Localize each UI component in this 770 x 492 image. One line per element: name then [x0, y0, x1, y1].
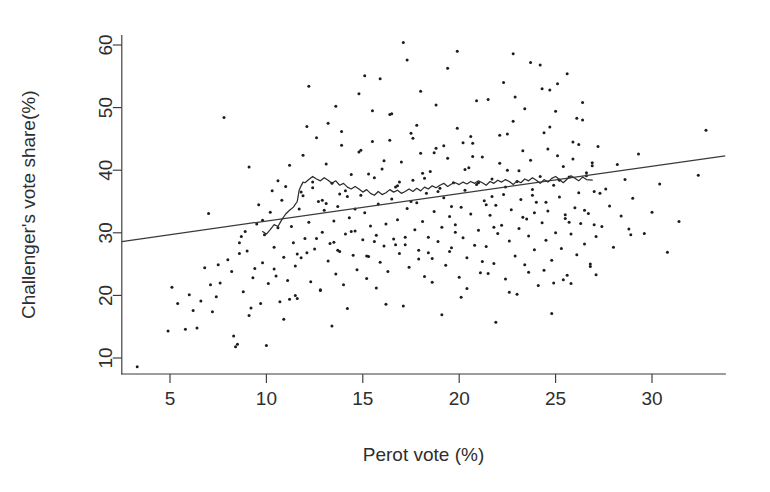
data-point	[539, 175, 542, 178]
data-point	[427, 251, 430, 254]
data-point	[383, 159, 386, 162]
data-point	[315, 237, 318, 240]
data-point	[384, 303, 387, 306]
data-point	[433, 210, 436, 213]
data-point	[519, 198, 522, 201]
data-point	[373, 240, 376, 243]
data-point	[591, 161, 594, 164]
data-point	[410, 132, 413, 135]
data-point	[292, 241, 295, 244]
data-point	[419, 152, 422, 155]
data-point	[273, 246, 276, 249]
data-point	[259, 302, 262, 305]
data-point	[342, 283, 345, 286]
data-point	[392, 238, 395, 241]
data-point	[537, 284, 540, 287]
data-point	[246, 249, 249, 252]
data-point	[332, 219, 335, 222]
data-point	[363, 211, 366, 214]
data-point	[492, 226, 495, 229]
data-point	[340, 130, 343, 133]
data-point	[616, 163, 619, 166]
data-point	[302, 154, 305, 157]
y-tick-label: 30	[95, 222, 116, 243]
data-point	[598, 192, 601, 195]
data-point	[529, 159, 532, 162]
data-point	[294, 264, 297, 267]
data-point	[612, 246, 615, 249]
data-point	[411, 179, 414, 182]
data-point	[543, 131, 546, 134]
data-point	[620, 214, 623, 217]
data-point	[477, 229, 480, 232]
data-point	[535, 201, 538, 204]
data-point	[593, 223, 596, 226]
data-point	[658, 182, 661, 185]
data-point	[463, 189, 466, 192]
data-point	[514, 95, 517, 98]
data-point	[276, 179, 279, 182]
data-point	[192, 309, 195, 312]
data-point	[539, 64, 542, 67]
data-point	[267, 282, 270, 285]
data-point	[359, 149, 362, 152]
data-point	[269, 211, 272, 214]
data-point	[386, 270, 389, 273]
data-point	[446, 67, 449, 70]
data-point	[440, 226, 443, 229]
data-point	[419, 90, 422, 93]
data-point	[631, 197, 634, 200]
data-point	[581, 119, 584, 122]
x-tick-label: 25	[545, 388, 566, 409]
data-point	[307, 221, 310, 224]
axis-labels-layer: 51015202530102030405060Perot vote (%)Cha…	[18, 34, 663, 465]
data-point	[541, 221, 544, 224]
data-point	[421, 220, 424, 223]
data-point	[512, 120, 515, 123]
data-point	[548, 126, 551, 129]
data-point	[435, 147, 438, 150]
data-point	[433, 151, 436, 154]
data-points-layer	[136, 41, 708, 368]
data-point	[442, 144, 445, 147]
data-point	[234, 345, 237, 348]
data-point	[502, 193, 505, 196]
data-point	[226, 258, 229, 261]
data-point	[282, 256, 285, 259]
data-point	[325, 162, 328, 165]
data-point	[273, 268, 276, 271]
data-point	[444, 264, 447, 267]
data-point	[365, 254, 368, 257]
data-point	[361, 238, 364, 241]
data-point	[298, 208, 301, 211]
data-point	[319, 289, 322, 292]
data-point	[573, 206, 576, 209]
data-point	[533, 248, 536, 251]
y-tick-label: 20	[95, 285, 116, 306]
data-point	[365, 277, 368, 280]
data-point	[502, 81, 505, 84]
y-tick-label: 60	[95, 34, 116, 55]
data-point	[587, 212, 590, 215]
data-point	[303, 237, 306, 240]
data-point	[413, 228, 416, 231]
data-point	[329, 242, 332, 245]
data-point	[415, 124, 418, 127]
scatter-plot-figure: 51015202530102030405060Perot vote (%)Cha…	[0, 0, 770, 492]
data-point	[600, 225, 603, 228]
data-point	[450, 246, 453, 249]
data-point	[523, 263, 526, 266]
data-point	[469, 213, 472, 216]
data-point	[188, 293, 191, 296]
data-point	[481, 156, 484, 159]
data-point	[552, 281, 555, 284]
data-point	[346, 307, 349, 310]
data-point	[629, 233, 632, 236]
data-point	[388, 113, 391, 116]
data-point	[487, 272, 490, 275]
data-point	[290, 225, 293, 228]
data-point	[369, 224, 372, 227]
data-point	[317, 200, 320, 203]
data-point	[379, 77, 382, 80]
data-point	[556, 154, 559, 157]
